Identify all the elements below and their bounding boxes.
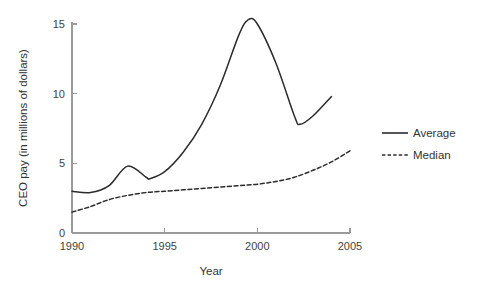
x-axis-title: Year <box>199 265 222 277</box>
ceo-pay-line-chart: 051015 1990199520002005 CEO pay (in mill… <box>0 0 478 291</box>
series-line-average <box>72 18 331 192</box>
y-tick-label-0: 0 <box>59 227 65 239</box>
y-tick-group: 051015 <box>53 18 77 239</box>
x-tick-label-2000: 2000 <box>245 240 269 252</box>
legend-label-median: Median <box>413 149 451 161</box>
y-tick-label-15: 15 <box>53 18 65 30</box>
series-group <box>72 18 350 212</box>
x-tick-label-1990: 1990 <box>60 240 84 252</box>
x-axis-group: 1990199520002005 <box>60 228 362 252</box>
y-tick-label-10: 10 <box>53 88 65 100</box>
y-tick-label-5: 5 <box>59 157 65 169</box>
y-axis-group: 051015 <box>53 18 77 239</box>
y-axis-title: CEO pay (in millions of dollars) <box>17 49 29 207</box>
legend-label-average: Average <box>413 127 456 139</box>
x-tick-group: 1990199520002005 <box>60 228 362 252</box>
x-tick-label-1995: 1995 <box>152 240 176 252</box>
x-tick-label-2005: 2005 <box>338 240 362 252</box>
chart-legend: AverageMedian <box>382 127 456 161</box>
chart-container: 051015 1990199520002005 CEO pay (in mill… <box>0 0 478 291</box>
